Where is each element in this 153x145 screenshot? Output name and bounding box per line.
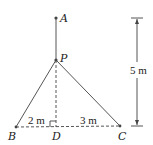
diagram-canvas: A P B D C 2 m 3 m 5 m <box>0 0 153 145</box>
dim-arrow-up-icon <box>135 19 139 24</box>
measure-height: 5 m <box>130 64 147 76</box>
label-C: C <box>118 130 127 143</box>
dim-arrow-down-icon <box>135 120 139 125</box>
right-angle-marker <box>50 121 56 127</box>
point-B <box>15 126 18 129</box>
label-B: B <box>7 130 16 143</box>
dashed-base-BC <box>16 126 120 127</box>
measure-BD: 2 m <box>28 114 45 126</box>
label-P: P <box>59 52 68 65</box>
measure-DC: 3 m <box>80 114 97 126</box>
point-P <box>54 58 57 61</box>
label-A: A <box>59 12 68 25</box>
point-C <box>119 125 122 128</box>
label-D: D <box>51 130 61 143</box>
point-A <box>54 16 57 19</box>
